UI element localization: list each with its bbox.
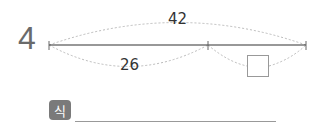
unknown-arc-left [208, 45, 247, 66]
unknown-arc-right [269, 45, 306, 66]
formula-badge: 식 [49, 100, 71, 120]
formula-answer-line[interactable] [75, 121, 276, 122]
part-label: 26 [120, 58, 139, 73]
total-label: 42 [168, 12, 187, 27]
unknown-answer-box[interactable] [247, 55, 269, 77]
